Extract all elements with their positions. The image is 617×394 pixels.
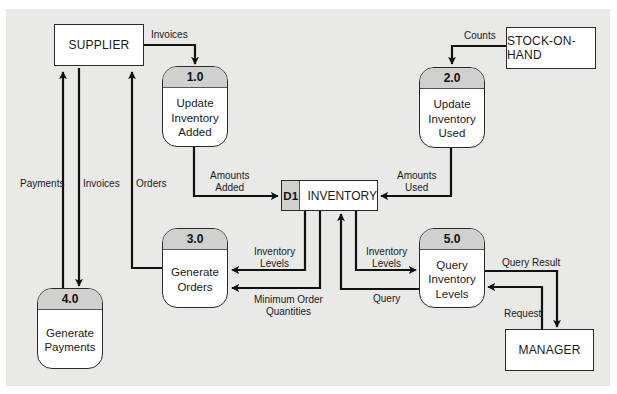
- process-name: Query Inventory Levels: [420, 250, 484, 308]
- label-line: Inventory: [254, 246, 295, 258]
- process-name: Update Inventory Used: [420, 89, 484, 148]
- label-inventory-levels-right: Inventory Levels: [366, 246, 407, 270]
- process-id: 3.0: [163, 229, 227, 250]
- process-id: 5.0: [420, 229, 484, 250]
- label-line: Levels: [366, 258, 407, 270]
- label-line: Used: [397, 182, 436, 194]
- process-generate-orders[interactable]: 3.0 Generate Orders: [162, 228, 228, 308]
- label-amounts-used: Amounts Used: [397, 170, 436, 194]
- flow-counts: [452, 46, 506, 64]
- label-query-result: Query Result: [502, 257, 560, 269]
- label-min-order-qty: Minimum Order Quantities: [254, 294, 323, 318]
- label-line: Amounts: [397, 170, 436, 182]
- label-orders: Orders: [136, 178, 167, 190]
- label-request: Request: [504, 308, 541, 320]
- process-update-inventory-used[interactable]: 2.0 Update Inventory Used: [419, 67, 485, 148]
- label-line: Minimum Order: [254, 294, 323, 306]
- label-line: Levels: [254, 258, 295, 270]
- label-counts: Counts: [464, 30, 496, 42]
- entity-manager-label: MANAGER: [518, 343, 580, 357]
- flow-orders: [132, 72, 163, 268]
- label-line: Added: [210, 182, 249, 194]
- process-name: Generate Orders: [163, 250, 227, 308]
- label-amounts-added: Amounts Added: [210, 170, 249, 194]
- flow-invoices-to-update-added: [143, 45, 195, 64]
- entity-stock-on-hand[interactable]: STOCK-ON-HAND: [506, 27, 596, 69]
- data-store-name: INVENTORY: [300, 181, 377, 210]
- data-store-id: D1: [282, 181, 300, 210]
- label-query: Query: [373, 293, 400, 305]
- data-store-inventory[interactable]: D1 INVENTORY: [281, 180, 378, 211]
- entity-stock-on-hand-label: STOCK-ON-HAND: [507, 34, 595, 62]
- label-invoices-left: Invoices: [83, 178, 120, 190]
- process-update-inventory-added[interactable]: 1.0 Update Inventory Added: [162, 66, 228, 147]
- process-name: Update Inventory Added: [163, 88, 227, 147]
- label-line: Quantities: [254, 306, 323, 318]
- label-inventory-levels-left: Inventory Levels: [254, 246, 295, 270]
- process-generate-payments[interactable]: 4.0 Generate Payments: [37, 288, 103, 369]
- entity-supplier-label: SUPPLIER: [69, 38, 130, 52]
- process-query-inventory-levels[interactable]: 5.0 Query Inventory Levels: [419, 228, 485, 308]
- label-line: Inventory: [366, 246, 407, 258]
- process-name: Generate Payments: [38, 310, 102, 369]
- label-line: Amounts: [210, 170, 249, 182]
- label-invoices-top: Invoices: [151, 29, 188, 41]
- entity-supplier[interactable]: SUPPLIER: [54, 24, 144, 66]
- entity-manager[interactable]: MANAGER: [505, 329, 594, 371]
- process-id: 2.0: [420, 68, 484, 89]
- process-id: 1.0: [163, 67, 227, 88]
- label-payments: Payments: [20, 178, 64, 190]
- process-id: 4.0: [38, 289, 102, 310]
